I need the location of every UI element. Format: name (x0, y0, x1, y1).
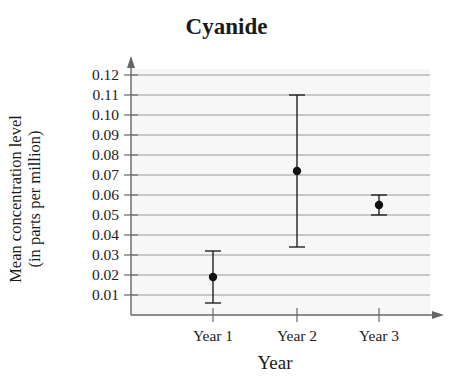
y-tick-label: 0.07 (92, 166, 119, 183)
x-tick-label: Year 2 (277, 327, 317, 344)
mean-point (293, 167, 301, 175)
y-tick-label: 0.02 (92, 266, 119, 283)
y-tick-label: 0.08 (92, 146, 119, 163)
plot-area: 0.010.020.030.040.050.060.070.080.090.10… (0, 0, 453, 387)
x-axis-arrow-icon (432, 311, 444, 319)
y-tick-label: 0.03 (92, 246, 119, 263)
y-tick-label: 0.12 (92, 66, 119, 83)
y-tick-label: 0.01 (92, 286, 119, 303)
plot-background (131, 69, 430, 315)
y-tick-label: 0.10 (92, 106, 119, 123)
mean-point (375, 201, 383, 209)
x-tick-label: Year 1 (193, 327, 233, 344)
x-tick-label: Year 3 (359, 327, 399, 344)
y-tick-label: 0.04 (92, 226, 119, 243)
y-tick-label: 0.09 (92, 126, 119, 143)
y-axis-arrow-icon (127, 56, 135, 68)
mean-point (209, 273, 217, 281)
y-tick-label: 0.05 (92, 206, 119, 223)
y-tick-label: 0.11 (92, 86, 119, 103)
y-tick-label: 0.06 (92, 186, 119, 203)
x-axis-label: Year (150, 352, 400, 374)
